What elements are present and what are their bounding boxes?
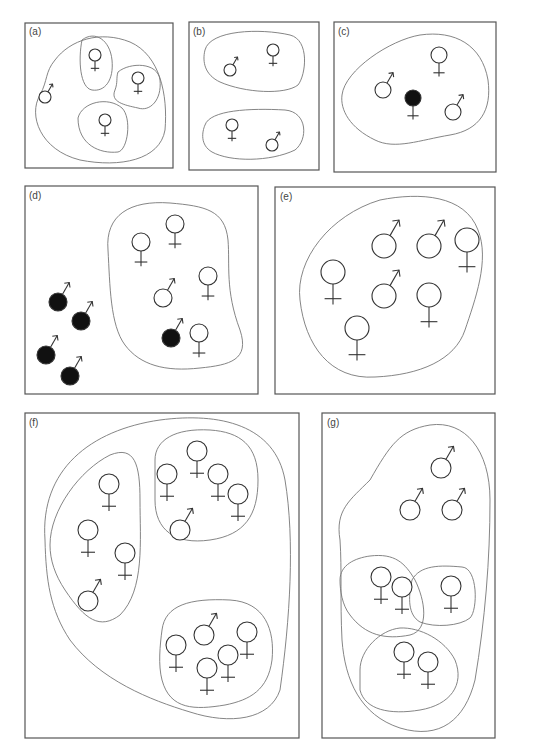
female-symbol-icon — [197, 658, 217, 695]
male-symbol-icon — [442, 488, 465, 520]
group-outline — [342, 34, 489, 144]
male-symbol-icon — [154, 279, 175, 307]
group-outline — [45, 418, 291, 719]
male-symbol-icon — [266, 132, 280, 151]
female-symbol-icon — [267, 44, 279, 66]
female-symbol-icon — [115, 543, 135, 580]
panel-label-g: (g) — [327, 417, 339, 428]
male-symbol-icon — [375, 73, 394, 98]
female-symbol-icon — [187, 441, 207, 478]
female-symbol-icon — [371, 567, 391, 604]
male-symbol-icon — [194, 613, 217, 645]
panel-label-c: (c) — [338, 26, 350, 37]
male-symbol-icon — [372, 220, 400, 258]
panel-frame — [25, 186, 258, 394]
panel-f — [25, 413, 299, 738]
female-symbol-icon — [345, 316, 369, 360]
female-symbol-icon — [132, 233, 150, 266]
female-symbol-icon — [405, 90, 421, 120]
female-symbol-icon — [208, 464, 228, 501]
male-symbol-icon — [224, 57, 238, 76]
female-symbol-icon — [218, 645, 238, 682]
female-symbol-icon — [226, 119, 238, 141]
group-outline — [360, 628, 458, 712]
panel-g — [322, 413, 495, 738]
group-outline — [80, 36, 112, 90]
male-symbol-icon — [431, 446, 454, 478]
female-symbol-icon — [199, 267, 217, 300]
female-symbol-icon — [78, 520, 98, 557]
panel-label-b: (b) — [193, 26, 205, 37]
male-symbol-icon — [61, 357, 82, 385]
female-symbol-icon — [418, 652, 438, 689]
panel-label-d: (d) — [29, 190, 41, 201]
male-symbol-icon — [78, 579, 101, 611]
female-symbol-icon — [157, 464, 177, 501]
male-symbol-icon — [37, 336, 58, 364]
female-symbol-icon — [99, 474, 119, 511]
panel-b — [189, 22, 319, 170]
panel-a — [25, 23, 173, 168]
mating-systems-diagram — [0, 0, 545, 752]
male-symbol-icon — [417, 220, 445, 258]
panel-frame — [25, 413, 299, 738]
group-outline — [410, 566, 476, 625]
female-symbol-icon — [99, 114, 111, 136]
male-symbol-icon — [372, 270, 400, 308]
male-symbol-icon — [400, 488, 423, 520]
female-symbol-icon — [441, 576, 461, 613]
female-symbol-icon — [166, 215, 184, 248]
panel-frame — [322, 413, 495, 738]
female-symbol-icon — [166, 635, 186, 672]
panel-c — [334, 22, 496, 172]
male-symbol-icon — [445, 95, 464, 120]
group-outline — [204, 31, 305, 91]
panel-label-e: (e) — [280, 191, 292, 202]
group-outline — [78, 102, 128, 153]
panel-d — [25, 186, 258, 394]
female-symbol-icon — [228, 484, 248, 521]
panel-e — [275, 187, 495, 394]
male-symbol-icon — [72, 302, 93, 330]
female-symbol-icon — [237, 622, 257, 659]
female-symbol-icon — [417, 283, 441, 327]
panel-label-f: (f) — [29, 417, 38, 428]
male-symbol-icon — [49, 283, 70, 311]
female-symbol-icon — [132, 72, 144, 94]
female-symbol-icon — [321, 260, 345, 304]
male-symbol-icon — [39, 84, 53, 103]
group-outline — [339, 424, 490, 731]
female-symbol-icon — [431, 47, 447, 77]
panel-label-a: (a) — [29, 26, 41, 37]
male-symbol-icon — [162, 319, 183, 347]
female-symbol-icon — [190, 324, 208, 357]
female-symbol-icon — [455, 228, 479, 272]
female-symbol-icon — [394, 642, 414, 679]
female-symbol-icon — [392, 577, 412, 614]
male-symbol-icon — [170, 508, 193, 540]
female-symbol-icon — [89, 49, 101, 71]
group-outline — [203, 109, 304, 159]
